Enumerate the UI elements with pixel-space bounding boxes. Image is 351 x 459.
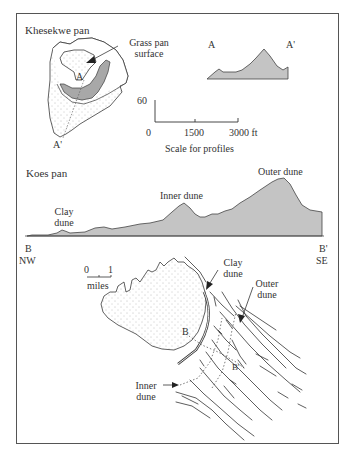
- grass-pan-label-line1: Grass pan: [122, 37, 176, 48]
- profile-aa-start-label: A: [208, 39, 215, 50]
- profile-bb-end-direction: SE: [316, 255, 328, 266]
- khesekwe-pan-map: [48, 38, 128, 138]
- scale-caption: Scale for profiles: [165, 143, 234, 154]
- miles-scale-0: 0: [84, 264, 89, 275]
- map-inner-dune-line2: dune: [130, 391, 162, 402]
- scale-tick-0: 0: [146, 127, 151, 138]
- point-a-prime-map-label: A': [53, 139, 62, 150]
- map-outer-dune-line1: Outer: [250, 278, 284, 289]
- khesekwe-pan-title: Khesekwe pan: [25, 25, 89, 36]
- grass-pan-surface-label: Grass pan surface: [122, 37, 176, 59]
- profile-bb-start-direction: NW: [19, 255, 36, 266]
- profile-aa: [207, 49, 288, 79]
- map-inner-dune-line1: Inner: [130, 380, 162, 391]
- profile-scale-bar: [155, 100, 238, 122]
- map-point-b-prime-label: B': [232, 362, 240, 373]
- profile-aa-end-label: A': [286, 39, 295, 50]
- point-a-map-label: A: [76, 71, 83, 82]
- scale-vertical-label: 60: [137, 95, 147, 106]
- map-clay-dune-line1: Clay: [218, 257, 248, 268]
- map-point-b-label: B: [182, 326, 189, 337]
- scale-tick-3000: 3000 ft: [229, 127, 258, 138]
- miles-scale-1: 1: [108, 264, 113, 275]
- profile-bb-end-label: B': [319, 243, 327, 254]
- inner-dune-arrowhead-icon: [172, 382, 179, 388]
- scale-tick-1500: 1500: [184, 127, 204, 138]
- map-outer-dune-label: Outer dune: [250, 278, 284, 300]
- grass-pan-label-line2: surface: [122, 48, 176, 59]
- outer-dune-arrowhead-icon: [238, 314, 245, 323]
- miles-scale-unit: miles: [87, 280, 109, 291]
- clay-dune-arrowhead-icon: [206, 281, 213, 290]
- profile-clay-dune-line2: dune: [48, 217, 80, 228]
- koes-pan-outline: [101, 258, 206, 350]
- map-clay-dune-line2: dune: [218, 268, 248, 279]
- map-inner-dune-label: Inner dune: [130, 380, 162, 402]
- profile-clay-dune-label: Clay dune: [48, 206, 80, 228]
- koes-pan-title: Koes pan: [26, 168, 67, 179]
- profile-outer-dune-label: Outer dune: [258, 166, 303, 177]
- miles-scale-bar: [87, 275, 111, 277]
- map-clay-dune-label: Clay dune: [218, 257, 248, 279]
- map-outer-dune-line2: dune: [250, 289, 284, 300]
- profile-inner-dune-label: Inner dune: [160, 190, 203, 201]
- profile-bb-start-label: B: [25, 243, 32, 254]
- profile-clay-dune-line1: Clay: [48, 206, 80, 217]
- diagram-canvas: [0, 0, 351, 459]
